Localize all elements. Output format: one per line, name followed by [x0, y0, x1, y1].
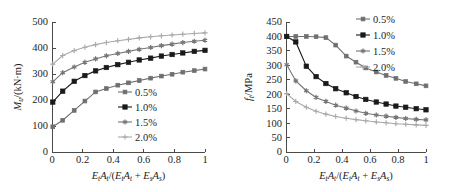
x-tick-label: 0.2 — [307, 154, 320, 165]
x-tick-label: 0 — [283, 154, 288, 165]
figure-container: 010020030040050000.20.40.60.810.5%1.0%1.… — [0, 0, 460, 192]
data-point — [294, 40, 298, 44]
data-point — [414, 122, 419, 127]
data-point — [353, 117, 358, 122]
data-point — [404, 80, 408, 84]
data-point — [314, 95, 319, 100]
data-point — [334, 43, 338, 47]
data-point — [51, 100, 55, 104]
y-tick-label: 0 — [43, 146, 48, 157]
y-tick-label: 200 — [266, 89, 282, 100]
data-point — [181, 70, 185, 74]
data-point — [159, 54, 163, 58]
svg-left-y-axis-title: Mu/(kN·m) — [12, 63, 25, 111]
data-point — [192, 31, 197, 36]
data-point — [344, 54, 348, 58]
legend-marker-0-5% — [123, 90, 127, 94]
data-point — [83, 99, 87, 103]
data-point — [414, 106, 418, 110]
series-line — [53, 50, 205, 102]
chart-panel-left: 010020030040050000.20.40.60.810.5%1.0%1.… — [0, 0, 230, 192]
data-point — [324, 99, 329, 104]
legend-marker-2-0% — [122, 134, 127, 139]
x-tick-label: 0.6 — [137, 154, 150, 165]
x-tick-label: 0 — [49, 154, 54, 165]
data-point — [424, 108, 428, 112]
y-tick-label: 300 — [266, 60, 282, 71]
data-point — [192, 69, 196, 73]
data-point — [72, 79, 76, 83]
series-1-0% — [285, 34, 429, 112]
data-point — [180, 32, 185, 37]
data-point — [344, 91, 348, 95]
y-tick-label: 250 — [266, 74, 282, 85]
data-point — [116, 62, 120, 66]
data-point — [414, 82, 418, 86]
data-point — [285, 34, 289, 38]
data-point — [314, 35, 318, 39]
data-point — [83, 73, 87, 77]
x-tick-label: 0.4 — [107, 154, 121, 165]
legend-label-2-0%: 2.0% — [373, 62, 395, 73]
x-tick-label: 0.8 — [391, 154, 404, 165]
data-point — [203, 48, 207, 52]
data-point — [364, 97, 368, 101]
data-point — [424, 84, 428, 88]
y-tick-label: 200 — [32, 94, 48, 105]
y-tick-label: 100 — [266, 118, 282, 129]
legend-marker-1-0% — [361, 33, 365, 37]
data-point — [149, 76, 153, 80]
legend-label-1-0%: 1.0% — [373, 30, 395, 41]
series-1-0% — [51, 48, 208, 104]
y-tick-label: 350 — [266, 45, 282, 56]
x-tick-label: 0.8 — [168, 154, 181, 165]
y-tick-label: 450 — [266, 16, 282, 27]
data-point — [104, 87, 108, 91]
data-point — [127, 81, 131, 85]
data-point — [334, 87, 338, 91]
x-tick-label: 1 — [423, 154, 428, 165]
legend-label-1-5%: 1.5% — [135, 117, 157, 128]
data-point — [374, 119, 379, 124]
y-tick-label: 300 — [32, 68, 48, 79]
y-tick-label: 100 — [32, 120, 48, 131]
data-point — [314, 74, 318, 78]
legend-label-1-5%: 1.5% — [373, 46, 395, 57]
data-point — [104, 65, 108, 69]
legend-marker-0-5% — [361, 17, 365, 21]
x-axis-title: EtAt/(EtAt + EsAs) — [91, 170, 166, 183]
axis-spine — [286, 22, 426, 152]
data-point — [314, 109, 319, 114]
svg-right-y-axis-title-text: ft/MPa — [243, 73, 256, 101]
data-point — [304, 35, 308, 39]
data-point — [404, 105, 408, 109]
x-axis-title-text: EtAt/(EtAt + EsAs) — [318, 170, 393, 183]
data-point — [170, 32, 175, 37]
legend-marker-1-0% — [123, 105, 127, 109]
svg-left-y-axis-title-text: Mu/(kN·m) — [12, 63, 25, 111]
data-point — [159, 74, 163, 78]
data-point — [159, 33, 164, 38]
x-tick-label: 1 — [202, 154, 207, 165]
x-axis-title-text: EtAt/(EtAt + EsAs) — [91, 170, 166, 183]
data-point — [137, 58, 141, 62]
data-point — [304, 105, 309, 110]
y-tick-label: 0 — [277, 146, 282, 157]
data-point — [51, 125, 55, 129]
y-tick-label: 400 — [32, 42, 48, 53]
data-point — [137, 35, 142, 40]
data-point — [203, 67, 207, 71]
data-point — [148, 34, 153, 39]
y-tick-label: 400 — [266, 31, 282, 42]
legend-label-1-0%: 1.0% — [135, 102, 157, 113]
data-point — [363, 118, 368, 123]
data-point — [304, 64, 308, 68]
data-point — [137, 79, 141, 83]
data-point — [126, 60, 130, 64]
data-point — [324, 36, 328, 40]
svg-right-y-axis-title: ft/MPa — [243, 73, 256, 101]
series-1-5% — [284, 62, 428, 122]
data-point — [61, 89, 65, 93]
data-point — [93, 69, 97, 73]
legend-label-2-0%: 2.0% — [135, 132, 157, 143]
